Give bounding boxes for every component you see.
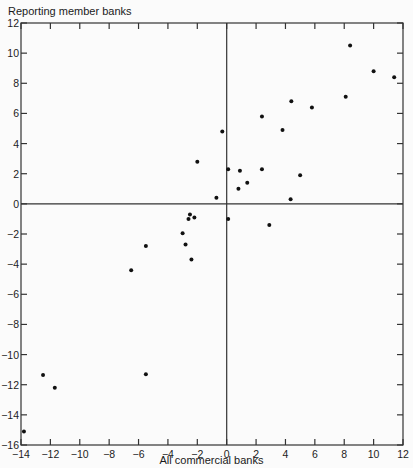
- data-point: [267, 223, 271, 227]
- data-point: [348, 44, 352, 48]
- data-point: [214, 196, 218, 200]
- y-tick-label: 12: [7, 17, 19, 29]
- data-point: [41, 373, 45, 377]
- data-point: [238, 169, 242, 173]
- y-tick-label: −16: [1, 439, 19, 451]
- data-point: [260, 167, 264, 171]
- data-point: [22, 429, 26, 433]
- y-tick-label: 2: [13, 168, 19, 180]
- data-point: [53, 386, 57, 390]
- y-tick-label: 0: [13, 198, 19, 210]
- data-point: [236, 187, 240, 191]
- data-point: [188, 212, 192, 216]
- data-point: [392, 75, 396, 79]
- data-point: [195, 160, 199, 164]
- data-point: [245, 181, 249, 185]
- data-point: [226, 167, 230, 171]
- data-point: [186, 217, 190, 221]
- y-tick-label: −12: [1, 379, 19, 391]
- data-point: [189, 258, 193, 262]
- data-point: [260, 114, 264, 118]
- y-tick-label: −14: [1, 409, 19, 421]
- data-point: [144, 372, 148, 376]
- data-point: [281, 128, 285, 132]
- y-tick-label: 10: [7, 47, 19, 59]
- x-axis-title: All commercial banks: [0, 454, 413, 466]
- y-tick-label: −2: [7, 228, 19, 240]
- y-tick-label: 8: [13, 77, 19, 89]
- data-point: [289, 197, 293, 201]
- data-points: [22, 44, 396, 434]
- y-tick-label: −10: [1, 349, 19, 361]
- data-point: [289, 99, 293, 103]
- y-tick-label: 4: [13, 138, 19, 150]
- y-tick-label: −6: [7, 288, 19, 300]
- data-point: [184, 243, 188, 247]
- data-point: [144, 244, 148, 248]
- y-tick-label: 6: [13, 107, 19, 119]
- data-point: [344, 95, 348, 99]
- scatter-plot: −14−12−10−8−6−4−2024681012121086420−2−4−…: [0, 0, 413, 468]
- data-point: [129, 268, 133, 272]
- y-tick-label: −4: [7, 258, 19, 270]
- data-point: [220, 130, 224, 134]
- data-point: [181, 231, 185, 235]
- y-tick-label: −8: [7, 318, 19, 330]
- plot-frame: −14−12−10−8−6−4−2024681012121086420−2−4−…: [1, 17, 409, 460]
- data-point: [310, 105, 314, 109]
- data-point: [226, 217, 230, 221]
- data-point: [298, 173, 302, 177]
- plot-border: [21, 23, 403, 445]
- data-point: [192, 215, 196, 219]
- data-point: [372, 69, 376, 73]
